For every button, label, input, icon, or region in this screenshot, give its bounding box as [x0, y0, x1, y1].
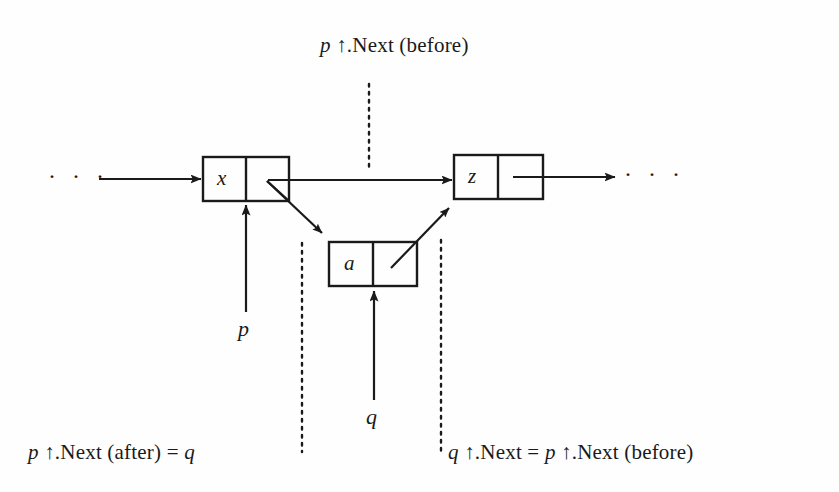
node-x-value: x [217, 166, 226, 191]
annotation-bottom-right: q ↑.Next = p ↑.Next (before) [448, 440, 693, 465]
pointer-p-label: p [238, 316, 249, 342]
diagram-canvas: · · · · · · x z a p q p ↑.Next (before) … [0, 0, 839, 492]
pointer-q-label: q [366, 404, 377, 430]
node-a-box [329, 242, 417, 286]
annotation-bottom-left: p ↑.Next (after) = q [28, 440, 195, 465]
node-z-value: z [468, 164, 476, 189]
node-a-value: a [344, 251, 355, 276]
linked-list-diagram [0, 0, 839, 492]
ellipsis-right: · · · [624, 161, 685, 188]
annotation-top: p ↑.Next (before) [320, 33, 469, 58]
ellipsis-left: · · · [48, 163, 109, 190]
